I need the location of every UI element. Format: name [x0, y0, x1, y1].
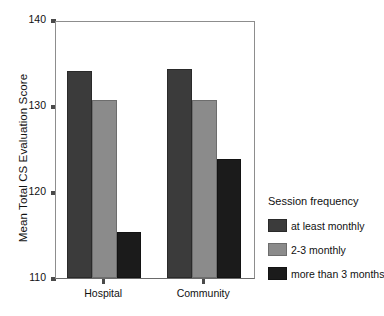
bar [192, 100, 217, 278]
plot-area [55, 21, 255, 279]
legend-item: 2-3 monthly [268, 243, 380, 256]
legend-item: at least monthly [268, 219, 380, 232]
bar [92, 100, 117, 278]
legend-swatch [268, 243, 287, 256]
legend-swatch [268, 267, 287, 280]
legend-entries: at least monthly2-3 monthlymore than 3 m… [268, 219, 380, 280]
y-tick-label: 140 [28, 13, 46, 25]
legend-swatch [268, 219, 287, 232]
legend-label: 2-3 monthly [291, 244, 346, 256]
x-tick-label: Community [143, 287, 263, 299]
legend-title: Session frequency [268, 195, 380, 207]
legend-item: more than 3 months [268, 267, 380, 280]
x-tick-mark [102, 279, 105, 284]
x-tick-mark [202, 279, 205, 284]
bar [217, 159, 242, 278]
legend-label: at least monthly [291, 220, 365, 232]
bar [117, 232, 142, 278]
y-tick-label: 120 [28, 185, 46, 197]
y-axis-title: Mean Total CS Evaluation Score [17, 43, 29, 273]
legend-label: more than 3 months [291, 268, 384, 280]
y-tick-label: 130 [28, 99, 46, 111]
legend: Session frequency at least monthly2-3 mo… [268, 195, 380, 291]
y-tick-label: 110 [29, 271, 46, 283]
bar [67, 71, 92, 278]
bar [167, 69, 192, 278]
